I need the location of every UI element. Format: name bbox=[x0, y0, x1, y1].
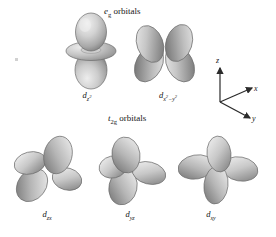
label-dz2-sub: z2 bbox=[87, 96, 92, 102]
heading-t2g-orbitals: t2g orbitals bbox=[108, 113, 146, 125]
orbital-shape-dxy bbox=[178, 133, 260, 207]
orbital-shape-dz2 bbox=[63, 12, 119, 90]
label-dx2y2-sup2: 2 bbox=[175, 94, 177, 99]
orbital-shape-dx2y2 bbox=[127, 18, 201, 90]
dz2-highlight bbox=[79, 18, 91, 32]
axis-label-z: z bbox=[216, 56, 219, 65]
dxy-lobes bbox=[178, 135, 260, 205]
axis-label-x: x bbox=[254, 84, 258, 93]
dxy-svg bbox=[178, 133, 260, 207]
dz2-svg bbox=[63, 12, 119, 90]
dzx-lobes bbox=[10, 133, 84, 207]
axis-line-x bbox=[220, 88, 252, 102]
orbital-label-dx2y2: dx2−y2 bbox=[140, 90, 196, 102]
label-dyz-sub: yz bbox=[130, 215, 135, 221]
label-dx2y2-sub: x2−y2 bbox=[163, 96, 177, 102]
orbital-label-dzx: dzx bbox=[27, 209, 67, 221]
orbital-label-dz2: dz2 bbox=[70, 90, 104, 102]
axis-triad: z x y bbox=[196, 58, 268, 128]
dz2-lobe-top bbox=[76, 13, 107, 51]
orbital-shape-dzx bbox=[10, 133, 92, 207]
dyz-svg bbox=[93, 133, 175, 207]
orbital-label-dxy: dxy bbox=[191, 209, 231, 221]
axis-triad-svg bbox=[196, 58, 268, 128]
dyz-lobes bbox=[97, 135, 168, 207]
axis-label-y: y bbox=[252, 114, 256, 123]
d-orbital-diagram: eg orbitals bbox=[0, 0, 276, 237]
label-dzx-sub: zx bbox=[47, 215, 52, 221]
label-dxy-sub: xy bbox=[210, 215, 215, 221]
dx2y2-lobes bbox=[129, 21, 201, 87]
orbital-shape-dyz bbox=[93, 133, 175, 207]
dzx-svg bbox=[10, 133, 92, 207]
scan-artifact-speck bbox=[15, 58, 18, 61]
heading-t2g-text: orbitals bbox=[117, 113, 146, 123]
orbital-label-dyz: dyz bbox=[110, 209, 150, 221]
label-dx2y2-subvar2: −y bbox=[168, 96, 175, 102]
dx2y2-svg bbox=[127, 18, 201, 90]
axis-line-y bbox=[220, 102, 250, 118]
label-dz2-sup: 2 bbox=[89, 94, 91, 99]
